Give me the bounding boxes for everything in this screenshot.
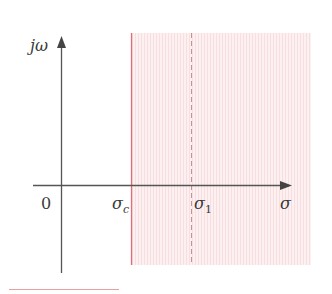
sigma-c-subscript: c: [123, 203, 129, 216]
sigma-1-label: σ1: [194, 196, 212, 212]
vertical-axis-arrow-icon: [57, 36, 66, 48]
sigma-1-symbol: σ: [194, 194, 205, 213]
sigma-c-label: σc: [112, 196, 129, 212]
sigma-1-subscript: 1: [205, 203, 212, 216]
origin-label: 0: [41, 196, 51, 212]
horizontal-axis-label: σ: [280, 196, 291, 212]
roc-region: [131, 33, 311, 265]
vertical-axis-label: jω: [30, 38, 48, 54]
s-plane-diagram: jω 0 σc σ1 σ: [0, 0, 332, 294]
diagram-svg: [0, 0, 332, 294]
sigma-c-symbol: σ: [112, 194, 123, 213]
